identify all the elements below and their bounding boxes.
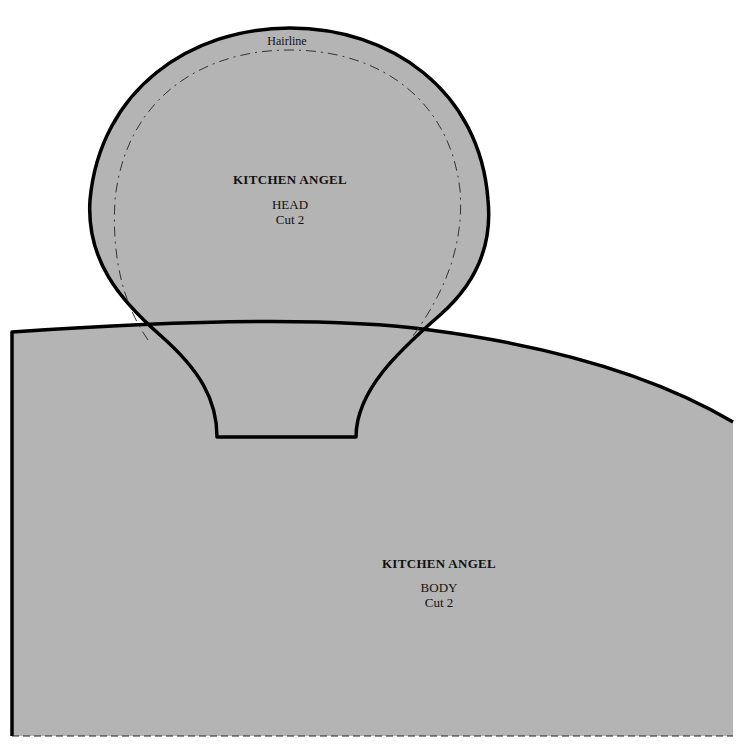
body-title: KITCHEN ANGEL (382, 556, 496, 572)
head-title: KITCHEN ANGEL (233, 172, 347, 188)
pattern-sheet: Hairline KITCHEN ANGEL HEAD Cut 2 KITCHE… (0, 0, 742, 744)
body-cut-label: Cut 2 (425, 595, 454, 610)
body-part-label: BODY (421, 580, 458, 595)
head-part-label: HEAD (272, 197, 308, 212)
head-cut-label: Cut 2 (276, 212, 305, 227)
pattern-drawing (0, 0, 742, 744)
hairline-label: Hairline (267, 34, 306, 49)
